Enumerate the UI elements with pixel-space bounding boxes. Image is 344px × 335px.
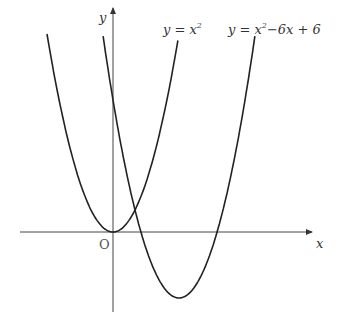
y-axis-label: y (98, 10, 107, 25)
curve-label-y-x2-6x-6: y = x2−6x + 6 (227, 21, 321, 37)
parabola-y-x2-6x-6 (103, 36, 255, 298)
origin-label: O (99, 237, 110, 252)
parabola-diagram: x y O y = x2 y = x2−6x + 6 (0, 0, 344, 335)
parabola-y-x2 (47, 34, 178, 232)
curve-label-y-x2: y = x2 (162, 21, 202, 37)
x-axis-label: x (316, 236, 324, 251)
